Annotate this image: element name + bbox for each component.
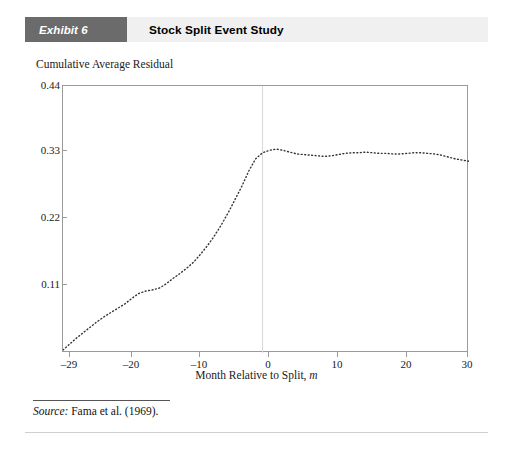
x-axis-title: Month Relative to Split, m <box>0 369 513 381</box>
chart-container: Cumulative Average Residual 0.44 0.33 0.… <box>0 0 513 450</box>
plot-frame <box>62 85 468 352</box>
x-tick-mark-10 <box>337 352 338 357</box>
source-label: Source: <box>33 405 68 417</box>
cumulative-average-residual-series <box>63 149 469 350</box>
x-axis-title-text: Month Relative to Split, <box>195 369 309 381</box>
y-tick-mark-011 <box>62 284 67 285</box>
x-tick-mark-m20 <box>131 352 132 357</box>
y-tick-mark-033 <box>62 150 67 151</box>
y-tick-label-033: 0.33 <box>26 144 60 156</box>
x-tick-mark-m10 <box>199 352 200 357</box>
y-tick-label-044: 0.44 <box>26 79 60 91</box>
x-tick-mark-m29 <box>69 352 70 357</box>
footer-divider-rule <box>25 432 488 433</box>
y-tick-mark-022 <box>62 217 67 218</box>
x-axis-title-variable: m <box>309 369 317 381</box>
x-tick-mark-20 <box>406 352 407 357</box>
y-tick-label-022: 0.22 <box>26 211 60 223</box>
source-note: Source: Fama et al. (1969). <box>33 405 158 417</box>
source-text: Fama et al. (1969). <box>68 405 158 417</box>
x-tick-mark-30 <box>467 352 468 357</box>
y-tick-label-011: 0.11 <box>26 278 60 290</box>
y-axis-title: Cumulative Average Residual <box>36 58 173 70</box>
x-tick-mark-0 <box>268 352 269 357</box>
source-divider-rule <box>33 400 170 401</box>
plot-svg <box>63 86 469 353</box>
